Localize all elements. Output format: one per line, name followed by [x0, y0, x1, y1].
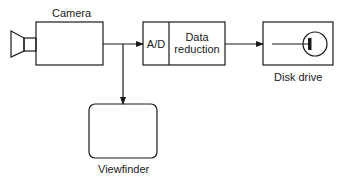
data-reduction-label: Data reduction: [169, 31, 225, 55]
camera-icon: [11, 22, 103, 65]
data-reduction-label-line2: reduction: [169, 43, 225, 55]
data-reduction-label-line1: Data: [169, 31, 225, 43]
disk-head-icon: [308, 38, 312, 50]
ad-label: A/D: [143, 38, 169, 50]
diagram-canvas: [0, 0, 343, 179]
camera-label: Camera: [52, 7, 91, 19]
camera-lens-neck: [24, 38, 36, 51]
disk-drive-icon: [263, 22, 333, 65]
camera-lens-icon: [11, 31, 24, 57]
camera-body: [36, 22, 103, 65]
viewfinder-label: Viewfinder: [98, 163, 149, 175]
disk-drive-label: Disk drive: [274, 71, 322, 83]
viewfinder-screen-icon: [89, 104, 157, 158]
